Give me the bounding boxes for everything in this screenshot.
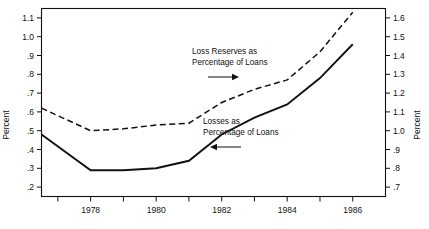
y-axis-right-tick-label: 1.3 [393, 69, 405, 79]
y-axis-left-tick-label: .6 [27, 107, 34, 117]
y-axis-left-tick-label: .9 [27, 51, 34, 61]
chart-background [0, 0, 429, 229]
y-axis-left-tick-label: .8 [27, 69, 34, 79]
losses-annotation-line-2: Percentage of Loans [203, 128, 279, 137]
x-axis-tick-label: 1982 [212, 205, 231, 215]
y-axis-right-tick-label: 1.6 [393, 13, 405, 23]
y-axis-left-tick-label: .7 [27, 88, 34, 98]
x-axis-tick-label: 1984 [278, 205, 297, 215]
y-axis-left-tick-label: .3 [27, 163, 34, 173]
y-axis-right-tick-label: 1.0 [393, 126, 405, 136]
y-axis-right-tick-label: .9 [393, 145, 400, 155]
y-axis-right-tick-label: 1.5 [393, 32, 405, 42]
chart-container: .2.3.4.5.6.7.8.91.01.1 .7.8.91.01.11.21.… [0, 0, 429, 229]
y-axis-right-tick-label: 1.2 [393, 88, 405, 98]
y-axis-right-title: Percent [412, 110, 422, 140]
y-axis-right-tick-label: 1.1 [393, 107, 405, 117]
y-axis-right-tick-label: .8 [393, 163, 400, 173]
line-chart: .2.3.4.5.6.7.8.91.01.1 .7.8.91.01.11.21.… [0, 0, 429, 229]
y-axis-right-tick-label: 1.4 [393, 51, 405, 61]
x-axis-tick-label: 1978 [81, 205, 100, 215]
y-axis-left-tick-label: .2 [27, 182, 34, 192]
x-axis-tick-label: 1986 [343, 205, 362, 215]
y-axis-right-tick-label: .7 [393, 182, 400, 192]
y-axis-left-tick-label: 1.0 [22, 32, 34, 42]
reserves-annotation-line-2: Percentage of Loans [192, 58, 268, 67]
x-axis-tick-label: 1980 [147, 205, 166, 215]
reserves-annotation-line-1: Loss Reserves as [192, 47, 257, 56]
y-axis-left-title: Percent [1, 110, 11, 140]
y-axis-left-tick-label: .5 [27, 126, 34, 136]
y-axis-left-tick-label: 1.1 [22, 13, 34, 23]
losses-annotation-line-1: Losses as [203, 117, 240, 126]
y-axis-left-tick-label: .4 [27, 145, 34, 155]
